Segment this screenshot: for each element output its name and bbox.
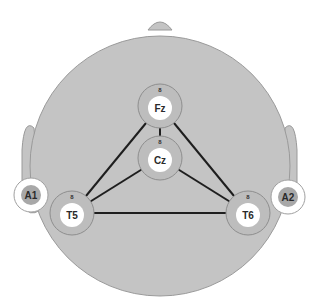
electrode-fz[interactable]: 8 Fz (138, 84, 182, 128)
electrode-t5[interactable]: 8 T5 (50, 191, 94, 235)
electrode-label: T5 (66, 210, 78, 221)
nose (148, 22, 172, 30)
electrode-cz[interactable]: 8 Cz (138, 136, 182, 180)
electrode-t6[interactable]: 8 T6 (226, 191, 270, 235)
eeg-head-diagram: 8 Fz 8 Cz 8 T5 8 T6 A1 A2 (0, 0, 319, 306)
electrode-label: Cz (154, 155, 166, 166)
reference-label: A1 (25, 190, 38, 201)
reference-a2[interactable]: A2 (271, 180, 305, 214)
electrode-label: T6 (242, 210, 254, 221)
reference-a1[interactable]: A1 (14, 178, 48, 212)
reference-label: A2 (282, 192, 295, 203)
electrode-label: Fz (154, 103, 165, 114)
